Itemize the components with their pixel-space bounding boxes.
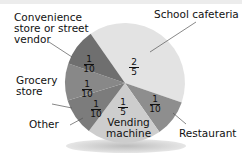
label-restaurant: Restaurant — [179, 128, 236, 139]
label-vending-machine: Vending machine — [106, 117, 151, 139]
label-convenience-line3: vendor — [14, 34, 89, 45]
leader-grocery — [52, 104, 72, 108]
fraction-convenience: 1 10 — [82, 55, 96, 74]
label-convenience: Convenience store or street vendor — [14, 12, 89, 45]
label-other: Other — [29, 119, 59, 130]
fraction-restaurant: 1 10 — [148, 95, 162, 114]
leader-restaurant — [173, 113, 186, 124]
fraction-school-cafeteria: 2 5 — [127, 58, 141, 77]
label-school-cafeteria: School cafeteria — [154, 9, 239, 20]
label-vending-line2: machine — [106, 128, 151, 139]
fraction-other: 1 10 — [89, 100, 103, 119]
fraction-grocery: 1 10 — [80, 80, 94, 99]
label-grocery: Grocery store — [16, 75, 57, 97]
fraction-vending: 1 5 — [116, 98, 130, 117]
label-grocery-line2: store — [16, 86, 57, 97]
